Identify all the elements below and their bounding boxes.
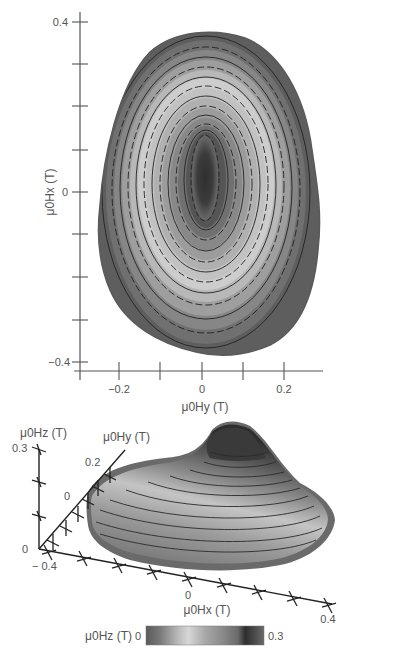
colorbar-min-label: 0 <box>135 630 141 642</box>
y-axis-3d-label: μ0Hy (T) <box>103 430 150 444</box>
contour-fill <box>90 20 330 365</box>
colorbar-gradient <box>146 626 264 645</box>
contour-map <box>90 20 330 365</box>
x-axis-label: μ0Hy (T) <box>182 400 229 414</box>
y-tick-label-bottom: −0.4 <box>48 356 70 368</box>
x-tick-label-3d-right: 0.4 <box>320 613 335 625</box>
y-tick-label-zero: 0 <box>62 186 68 198</box>
x-tick-label-zero: 0 <box>199 383 205 395</box>
y-axis-label: μ0Hx (T) <box>43 169 57 216</box>
z-tick-label-zero: 0 <box>22 543 28 555</box>
z-axis-label: μ0Hz (T) <box>20 426 67 440</box>
colorbar-max-label: 0.3 <box>268 630 283 642</box>
colorbar-label: μ0Hz (T) <box>85 629 132 643</box>
y-tick-label-3d-zero: 0 <box>64 490 70 502</box>
y-tick-label-3d-top: 0.2 <box>85 456 100 468</box>
x-axis-3d-label: μ0Hx (T) <box>184 603 231 617</box>
figure-canvas: 0.4 0 −0.4 −0.2 0 0.2 μ0Hy (T) μ0Hx (T) <box>0 0 393 658</box>
x-tick-label-3d-zero: 0 <box>185 589 191 601</box>
x-tick-label-left: −0.2 <box>108 383 130 395</box>
x-tick-label-right: 0.2 <box>276 383 291 395</box>
colorbar: μ0Hz (T) 0 0.3 <box>85 626 283 645</box>
z-tick-label-top: 0.3 <box>12 442 27 454</box>
y-tick-label-top: 0.4 <box>53 16 68 28</box>
x-tick-label-3d-left: − 0.4 <box>32 560 57 572</box>
